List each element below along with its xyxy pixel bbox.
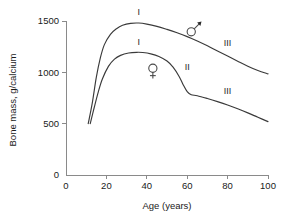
male-symbol xyxy=(187,21,201,35)
phase-one-label-male: I xyxy=(137,7,140,17)
phase-one-label-female: I xyxy=(137,37,140,47)
female-symbol xyxy=(149,64,157,78)
phase-three-label-female: III xyxy=(224,86,232,96)
x-tick-label-0: 0 xyxy=(63,180,68,191)
chart-canvas: 050010001500 020406080100 IIIIIIIIII Age… xyxy=(0,0,288,217)
y-axis-tick-labels: 050010001500 xyxy=(38,15,59,180)
x-tick-label-80: 80 xyxy=(222,180,233,191)
y-tick-label-500: 500 xyxy=(43,118,59,129)
curve-male xyxy=(88,23,268,124)
male-symbol-circle xyxy=(187,28,195,36)
data-curves xyxy=(88,23,268,124)
y-tick-label-0: 0 xyxy=(54,169,59,180)
x-axis: 020406080100 xyxy=(63,175,276,191)
x-axis-ticks xyxy=(106,175,268,179)
y-axis-title: Bone mass, g/calcium xyxy=(7,53,18,146)
phase-three-label-male: III xyxy=(224,38,232,48)
x-tick-label-20: 20 xyxy=(101,180,112,191)
y-axis: 050010001500 xyxy=(38,15,66,180)
x-tick-label-60: 60 xyxy=(182,180,193,191)
x-axis-title: Age (years) xyxy=(142,200,191,211)
female-symbol-circle xyxy=(149,64,157,72)
bone-mass-age-chart: 050010001500 020406080100 IIIIIIIIII Age… xyxy=(0,0,288,217)
x-tick-label-100: 100 xyxy=(260,180,276,191)
x-axis-tick-labels: 020406080100 xyxy=(63,180,276,191)
phase-two-label-female: II xyxy=(185,62,190,72)
x-tick-label-40: 40 xyxy=(142,180,153,191)
y-tick-label-1500: 1500 xyxy=(38,15,59,26)
y-axis-ticks xyxy=(62,21,66,124)
y-tick-label-1000: 1000 xyxy=(38,67,59,78)
